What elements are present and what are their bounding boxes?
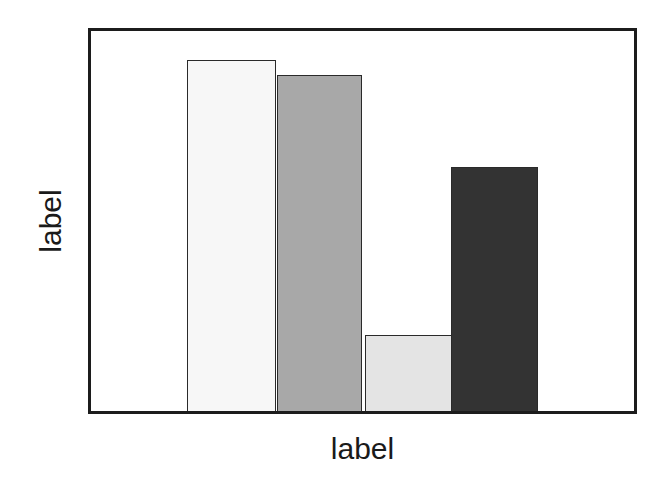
y-axis-label: label [36,28,66,414]
bar-1 [187,60,276,412]
bar-3 [365,335,454,411]
plot-area [91,31,634,411]
bar-4 [451,167,538,411]
bar-2 [277,75,363,411]
plot-frame [88,28,637,414]
x-axis-label: label [88,432,637,466]
figure-canvas: label label [0,0,666,492]
